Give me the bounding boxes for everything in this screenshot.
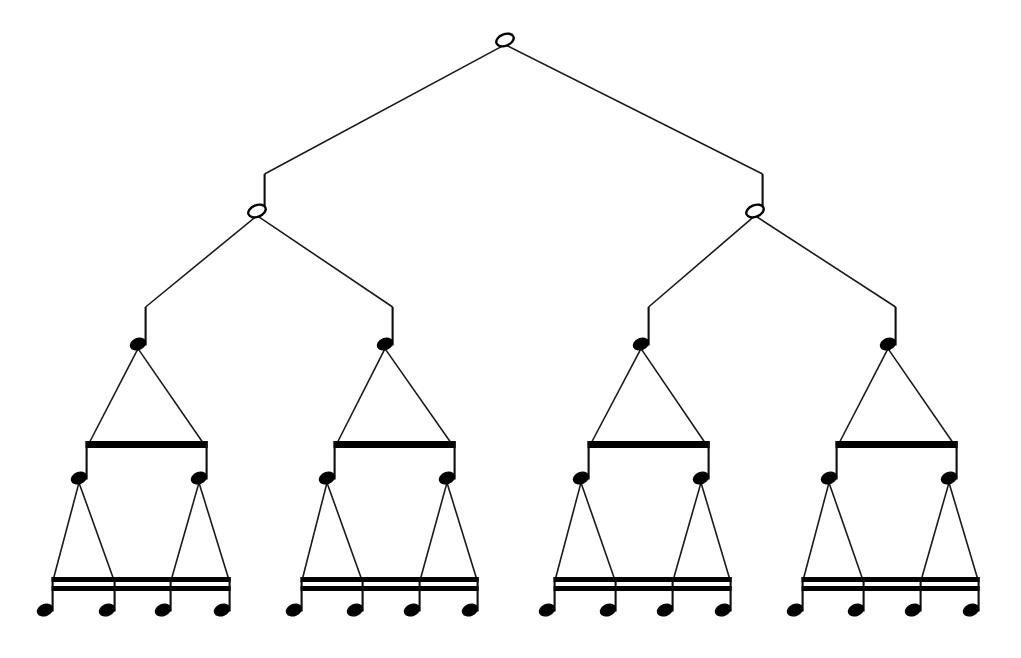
note-beam: [588, 441, 710, 448]
quarter-note-node: [631, 307, 651, 353]
tree-edge: [949, 483, 979, 582]
note-beam: [554, 586, 732, 591]
sixteenth-note-node: [35, 577, 55, 619]
tree-edge: [199, 483, 230, 582]
note-tree-figure: [0, 0, 1021, 658]
half-note-head-icon: [744, 202, 765, 220]
sixteenth-note-node: [153, 577, 173, 619]
tree-edge: [385, 349, 455, 448]
quarter-note-node: [878, 307, 898, 353]
half-note-head-icon: [246, 202, 267, 220]
tree-edge: [146, 216, 257, 307]
eighth-note-node: [317, 441, 337, 487]
whole-note-head-icon: [494, 31, 515, 49]
sixteenth-note-node: [284, 577, 304, 619]
tree-edge: [837, 349, 888, 448]
sixteenth-note-node: [903, 577, 923, 619]
tree-edge: [921, 483, 949, 582]
sixteenth-note-node: [97, 577, 117, 619]
tree-edge: [257, 216, 393, 307]
quarter-note-node: [375, 307, 395, 353]
sixteenth-note-node: [460, 577, 480, 619]
tree-edge: [87, 349, 138, 448]
note-beam: [301, 577, 479, 582]
tree-edge: [420, 483, 447, 582]
tree-edge: [447, 483, 478, 582]
sixteenth-note-node: [961, 577, 981, 619]
sixteenth-note-node: [537, 577, 557, 619]
tree-edge: [673, 483, 701, 582]
note-beam: [802, 586, 980, 591]
whole-note-node: [494, 31, 515, 49]
sixteenth-note-node: [846, 577, 866, 619]
tree-edge: [335, 349, 385, 448]
tree-edge: [138, 349, 207, 448]
tree-edge: [327, 483, 363, 582]
sixteenth-note-node: [402, 577, 422, 619]
tree-edge: [505, 45, 763, 174]
tree-edge: [171, 483, 199, 582]
note-beam: [301, 586, 479, 591]
sixteenth-note-node: [713, 577, 733, 619]
note-beam: [52, 586, 231, 591]
note-beam: [554, 577, 732, 582]
eighth-note-node: [571, 441, 591, 487]
note-layer: [35, 31, 981, 619]
tree-edge: [265, 45, 505, 174]
sixteenth-note-node: [785, 577, 805, 619]
tree-edge: [589, 349, 641, 448]
note-tree-canvas: [0, 0, 1021, 658]
note-beam: [86, 441, 208, 448]
eighth-note-node: [819, 441, 839, 487]
edge-layer: [53, 45, 979, 582]
tree-edge: [888, 349, 957, 448]
tree-edge: [581, 483, 616, 582]
note-beam: [802, 577, 980, 582]
note-beam: [52, 577, 231, 582]
note-beam: [836, 441, 958, 448]
tree-edge: [53, 483, 79, 582]
sixteenth-note-node: [212, 577, 232, 619]
sixteenth-note-node: [598, 577, 618, 619]
tree-edge: [829, 483, 864, 582]
sixteenth-note-node: [655, 577, 675, 619]
note-beam: [334, 441, 456, 448]
tree-edge: [555, 483, 581, 582]
tree-edge: [302, 483, 327, 582]
half-note-node: [744, 174, 765, 220]
sixteenth-note-node: [345, 577, 365, 619]
tree-edge: [79, 483, 115, 582]
half-note-node: [246, 174, 267, 220]
tree-edge: [649, 216, 755, 307]
tree-edge: [641, 349, 709, 448]
eighth-note-node: [69, 441, 89, 487]
tree-edge: [755, 216, 896, 307]
quarter-note-node: [128, 307, 148, 353]
tree-edge: [701, 483, 731, 582]
tree-edge: [803, 483, 829, 582]
